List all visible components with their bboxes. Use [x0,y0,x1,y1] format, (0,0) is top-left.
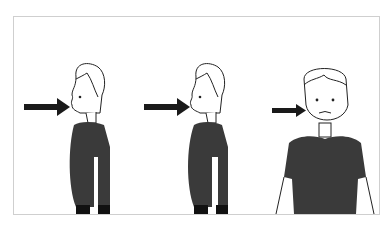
arrow-icon-2 [177,98,190,116]
illustration-frame [13,16,380,215]
figure-profile-2 [144,64,228,214]
figure-front [272,69,374,215]
arrow-icon-3 [296,104,306,117]
illustration-svg [14,17,379,214]
arrow-icon-1 [57,98,70,116]
figure-profile-1 [24,64,110,214]
